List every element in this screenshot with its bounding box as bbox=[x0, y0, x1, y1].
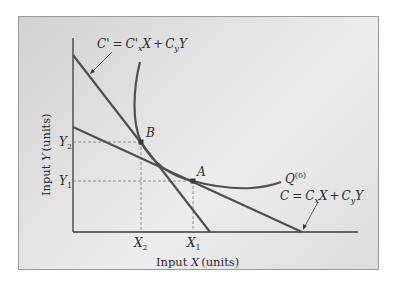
point-b-label: B bbox=[145, 126, 155, 140]
isocost-original-arrowhead bbox=[303, 224, 307, 230]
y-tick-y1: Y1 bbox=[59, 174, 72, 190]
point-b-marker bbox=[139, 140, 144, 145]
isocost-new-equation: C'=C'xX+CyY bbox=[97, 37, 188, 53]
isocost-original-pointer bbox=[305, 202, 318, 226]
x-tick-x1: X1 bbox=[186, 236, 201, 252]
isoquant-diagram: B A Y2 Y1 X2 X1 Input X(units) Input Y(u… bbox=[0, 0, 393, 296]
isocost-original-equation: C=CxX+CyY bbox=[280, 189, 364, 205]
point-a-marker bbox=[191, 179, 196, 184]
isocost-new-pointer bbox=[92, 52, 112, 72]
y-tick-y2: Y2 bbox=[59, 135, 72, 151]
x-tick-x2: X2 bbox=[133, 236, 148, 252]
y-axis-title: Input Y(units) bbox=[39, 113, 53, 196]
x-axis-title: Input X(units) bbox=[156, 255, 239, 269]
point-a-label: A bbox=[196, 165, 206, 179]
isoquant-label: Q(0) bbox=[285, 171, 306, 186]
isoquant-curve bbox=[135, 62, 282, 188]
